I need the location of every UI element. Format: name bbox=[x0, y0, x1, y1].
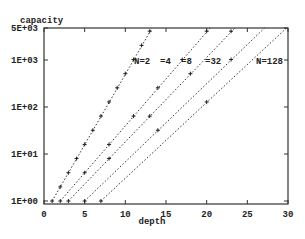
data-point-marker bbox=[205, 100, 209, 104]
plot-frame bbox=[44, 28, 288, 204]
y-tick-label: 1E+02 bbox=[11, 103, 38, 113]
x-axis-label: depth bbox=[138, 217, 165, 227]
data-point-marker bbox=[91, 128, 95, 132]
data-point-marker bbox=[83, 199, 87, 203]
y-tick-label: 1E+01 bbox=[11, 150, 39, 160]
y-tick-label: 1E+03 bbox=[11, 56, 38, 66]
data-point-marker bbox=[66, 199, 70, 203]
data-point-marker bbox=[205, 29, 209, 33]
data-point-marker bbox=[58, 199, 62, 203]
x-tick-label: 10 bbox=[120, 210, 131, 220]
series-label: =32 bbox=[205, 57, 221, 67]
series-n-4 bbox=[58, 28, 210, 203]
data-point-marker bbox=[229, 29, 233, 33]
data-point-marker bbox=[131, 114, 135, 118]
data-point-marker bbox=[229, 58, 233, 62]
data-point-marker bbox=[75, 157, 79, 161]
data-point-marker bbox=[99, 114, 103, 118]
data-point-marker bbox=[156, 128, 160, 132]
data-point-marker bbox=[123, 72, 127, 76]
series-label: =4 bbox=[160, 57, 171, 67]
data-point-marker bbox=[115, 86, 119, 90]
series-label: =8 bbox=[181, 57, 192, 67]
y-tick-label: 1E+00 bbox=[11, 197, 38, 207]
data-point-marker bbox=[188, 72, 192, 76]
x-tick-label: 25 bbox=[242, 210, 253, 220]
series-n-128 bbox=[99, 28, 287, 203]
series-label: N=2 bbox=[134, 57, 150, 67]
data-point-marker bbox=[50, 199, 54, 203]
data-point-marker bbox=[140, 43, 144, 47]
x-tick-label: 5 bbox=[82, 210, 87, 220]
capacity-vs-depth-chart: 0510152025301E+001E+011E+021E+035E+03 N=… bbox=[0, 0, 305, 239]
data-point-marker bbox=[107, 142, 111, 146]
data-point-marker bbox=[148, 29, 152, 33]
y-axis-label: capacity bbox=[20, 16, 64, 26]
series-n-32 bbox=[83, 28, 265, 203]
series-n-8 bbox=[66, 28, 235, 203]
x-tick-label: 30 bbox=[283, 210, 294, 220]
x-tick-label: 0 bbox=[41, 210, 46, 220]
series-label: N=128 bbox=[256, 57, 283, 67]
data-point-marker bbox=[99, 199, 103, 203]
x-tick-label: 20 bbox=[201, 210, 212, 220]
data-point-marker bbox=[66, 171, 70, 175]
series-n-2 bbox=[50, 28, 152, 203]
